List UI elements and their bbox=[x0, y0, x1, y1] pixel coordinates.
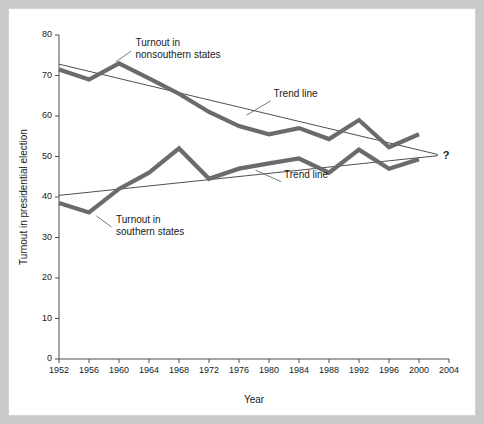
x-tick-label: 1984 bbox=[289, 365, 309, 375]
series-line bbox=[59, 63, 419, 147]
y-tick-label: 30 bbox=[42, 232, 52, 242]
x-tick-label: 1988 bbox=[319, 365, 339, 375]
annotation-leader-line bbox=[97, 216, 112, 227]
y-tick-label: 40 bbox=[42, 191, 52, 201]
series-line bbox=[59, 148, 419, 212]
y-tick-label: 50 bbox=[42, 151, 52, 161]
annotation-label-line: Trend line bbox=[284, 169, 329, 180]
annotation-label: Turnout innonsouthern states bbox=[136, 37, 221, 60]
annotation-label-line: nonsouthern states bbox=[136, 49, 221, 60]
x-tick-label: 1980 bbox=[259, 365, 279, 375]
annotation-label: Turnout insouthern states bbox=[116, 214, 184, 237]
y-axis-ticks: 01020304050607080 bbox=[42, 29, 59, 363]
y-tick-label: 80 bbox=[42, 29, 52, 39]
annotation-leader-line bbox=[247, 101, 271, 115]
annotation-label-line: Turnout in bbox=[116, 214, 161, 225]
y-tick-label: 70 bbox=[42, 70, 52, 80]
x-tick-label: 1976 bbox=[229, 365, 249, 375]
y-tick-label: 20 bbox=[42, 272, 52, 282]
x-axis-ticks: 1952195619601964196819721976198019841988… bbox=[49, 359, 459, 375]
annotation-label: Trend line bbox=[284, 169, 329, 180]
x-tick-label: 1964 bbox=[139, 365, 159, 375]
annotation-label-line: Trend line bbox=[274, 88, 319, 99]
x-tick-label: 2004 bbox=[439, 365, 459, 375]
y-axis-title: Turnout in presidential election bbox=[18, 129, 29, 265]
x-axis-title: Year bbox=[244, 394, 265, 405]
x-tick-label: 1952 bbox=[49, 365, 69, 375]
annotation-label: Trend line bbox=[274, 88, 319, 99]
y-tick-label: 0 bbox=[47, 353, 52, 363]
chart-axes bbox=[59, 35, 449, 359]
x-tick-label: 1968 bbox=[169, 365, 189, 375]
x-tick-label: 1992 bbox=[349, 365, 369, 375]
x-tick-label: 1956 bbox=[79, 365, 99, 375]
y-tick-label: 10 bbox=[42, 313, 52, 323]
x-tick-label: 1972 bbox=[199, 365, 219, 375]
annotation-leader-line bbox=[116, 51, 131, 62]
annotation-label-line: Turnout in bbox=[136, 37, 181, 48]
x-tick-label: 1996 bbox=[379, 365, 399, 375]
x-tick-label: 1960 bbox=[109, 365, 129, 375]
y-tick-label: 60 bbox=[42, 110, 52, 120]
question-mark-annotation: ? bbox=[443, 149, 450, 161]
annotation-label-line: southern states bbox=[116, 226, 184, 237]
annotation-leader-line bbox=[256, 170, 282, 181]
x-tick-label: 2000 bbox=[409, 365, 429, 375]
turnout-line-chart: 01020304050607080 1952195619601964196819… bbox=[9, 9, 477, 417]
figure-frame: 01020304050607080 1952195619601964196819… bbox=[8, 8, 476, 416]
